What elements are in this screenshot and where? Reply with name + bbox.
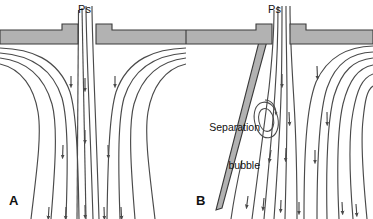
orifice-plate-b (186, 24, 373, 44)
figure-root: Ps A (0, 0, 373, 219)
streamline-arrows-b (247, 66, 357, 215)
separation-bubble-annotation: Separation bubble (170, 96, 260, 196)
panel-label-a: A (9, 193, 18, 208)
panel-a: Ps A (0, 0, 186, 219)
panel-a-drawing (0, 0, 186, 219)
streamline-group-right-b (304, 46, 373, 219)
ps-label-a: Ps (78, 3, 91, 15)
separation-bubble-annotation-line2: bubble (170, 159, 260, 172)
separation-bubble-annotation-line1: Separation (170, 121, 260, 134)
panel-label-b: B (196, 193, 205, 208)
ps-label-b: Ps (268, 3, 281, 15)
panel-b: Ps Separation bubble B (186, 0, 373, 219)
